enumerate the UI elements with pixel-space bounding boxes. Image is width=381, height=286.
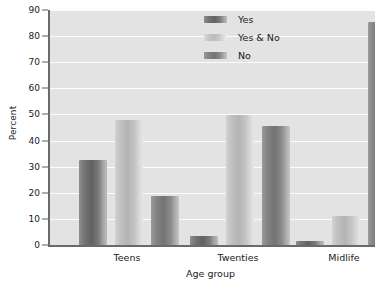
bar-chart: Percent 0102030405060708090 Yes Yes & No…: [0, 0, 381, 286]
bar: [262, 126, 290, 245]
legend-label-yes-and-no: Yes & No: [238, 32, 280, 43]
x-axis-tick-label: Teens: [114, 252, 141, 263]
bar: [151, 196, 179, 245]
gridline: [50, 141, 375, 142]
y-axis-tick-label: 70: [14, 57, 40, 67]
y-axis-tick-label: 90: [14, 5, 40, 15]
y-axis-tick-label: 10: [14, 214, 40, 224]
bar: [79, 160, 107, 245]
y-axis-tick-label: 80: [14, 31, 40, 41]
legend-label-yes: Yes: [238, 14, 253, 25]
legend-label-no: No: [238, 50, 251, 61]
x-axis-tick-label: Twenties: [217, 252, 258, 263]
y-axis-tick-label: 30: [14, 162, 40, 172]
x-axis-tick-labels: TeensTwentiesMidlife: [48, 252, 373, 266]
gridline: [50, 88, 375, 89]
legend-item-no[interactable]: No: [204, 47, 324, 64]
bar: [115, 120, 143, 245]
bar: [190, 236, 218, 245]
legend-swatch-icon-yes: [204, 16, 227, 23]
y-axis-tick-label: 40: [14, 136, 40, 146]
x-axis-title: Age group: [48, 268, 373, 279]
y-axis-tick-label: 50: [14, 109, 40, 119]
bar: [296, 241, 324, 245]
legend: Yes Yes & No No: [204, 11, 324, 65]
y-axis-tick-label: 0: [14, 240, 40, 250]
bar: [368, 22, 375, 245]
bar: [332, 216, 360, 246]
x-axis-tick-label: Midlife: [328, 252, 359, 263]
bar: [226, 115, 254, 245]
y-axis-tick-label: 20: [14, 188, 40, 198]
legend-swatch-icon-no: [204, 52, 227, 59]
legend-swatch-icon-yes-and-no: [204, 34, 227, 41]
legend-item-yes[interactable]: Yes: [204, 11, 324, 28]
legend-item-yes-and-no[interactable]: Yes & No: [204, 29, 324, 46]
y-axis-tick-labels: 0102030405060708090: [14, 10, 40, 245]
y-axis-tick-label: 60: [14, 83, 40, 93]
gridline: [50, 114, 375, 115]
